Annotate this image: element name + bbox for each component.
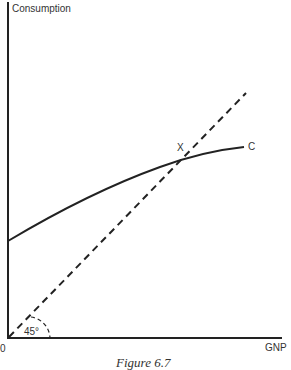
45-degree-line bbox=[9, 93, 246, 337]
x-axis-label: GNP bbox=[265, 342, 287, 353]
y-axis-label: Consumption bbox=[12, 3, 71, 14]
figure-caption: Figure 6.7 bbox=[116, 355, 170, 370]
origin-label: 0 bbox=[0, 343, 6, 354]
consumption-function-diagram bbox=[0, 0, 291, 370]
curve-label: C bbox=[248, 141, 255, 152]
intersection-label: X bbox=[177, 142, 184, 153]
angle-label: 45° bbox=[24, 326, 39, 337]
consumption-curve bbox=[8, 147, 244, 241]
